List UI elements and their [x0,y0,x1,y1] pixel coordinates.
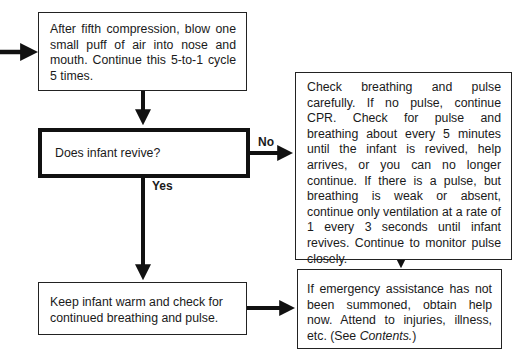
step-compression-box: After fifth compression, blow one small … [38,12,247,91]
decision-revive-text: Does infant revive? [55,146,160,160]
step-check-breathing-box: Check breathing and pulse carefully. If … [295,72,512,260]
label-no: No [258,135,274,149]
contents-reference: Contents. [360,329,413,343]
step-check-breathing-text: Check breathing and pulse carefully. If … [307,80,501,266]
step-get-help-box: If emergency assistance has not been sum… [297,269,502,349]
step-get-help-text-end: ) [412,329,416,343]
label-yes: Yes [152,179,173,193]
step-keep-warm-text: Keep infant warm and check for continued… [50,295,223,325]
decision-revive-box: Does infant revive? [38,128,250,178]
step-keep-warm-box: Keep infant warm and check for continued… [38,282,247,335]
step-compression-text: After fifth compression, blow one small … [50,22,236,83]
